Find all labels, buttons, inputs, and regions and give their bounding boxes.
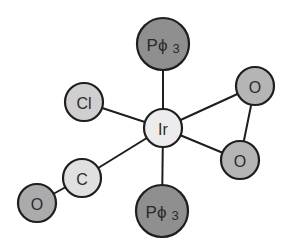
atom-label: O — [249, 79, 261, 96]
atom-ir: Ir — [144, 109, 182, 147]
atom-subscript: 3 — [172, 41, 179, 56]
atom-cl: Cl — [65, 83, 103, 121]
atom-label: O — [31, 196, 43, 213]
atom-label: C — [76, 171, 88, 188]
atom-c: C — [63, 159, 101, 197]
atom-label: Pϕ — [146, 203, 167, 222]
atom-o-bottom-left: O — [18, 184, 56, 222]
atom-label: O — [234, 153, 246, 170]
atom-label: Cl — [76, 95, 91, 112]
atom-subscript: 3 — [171, 208, 178, 223]
atom-pph3-bottom: Pϕ 3 — [136, 185, 188, 237]
atom-label: Ir — [158, 121, 168, 138]
atom-o-right: O — [221, 141, 259, 179]
iridium-complex-diagram: Pϕ 3 Cl Ir O O C O Pϕ 3 — [0, 0, 289, 250]
atom-o-top-right: O — [236, 67, 274, 105]
atom-pph3-top: Pϕ 3 — [137, 18, 189, 70]
atom-label: Pϕ — [147, 36, 168, 55]
